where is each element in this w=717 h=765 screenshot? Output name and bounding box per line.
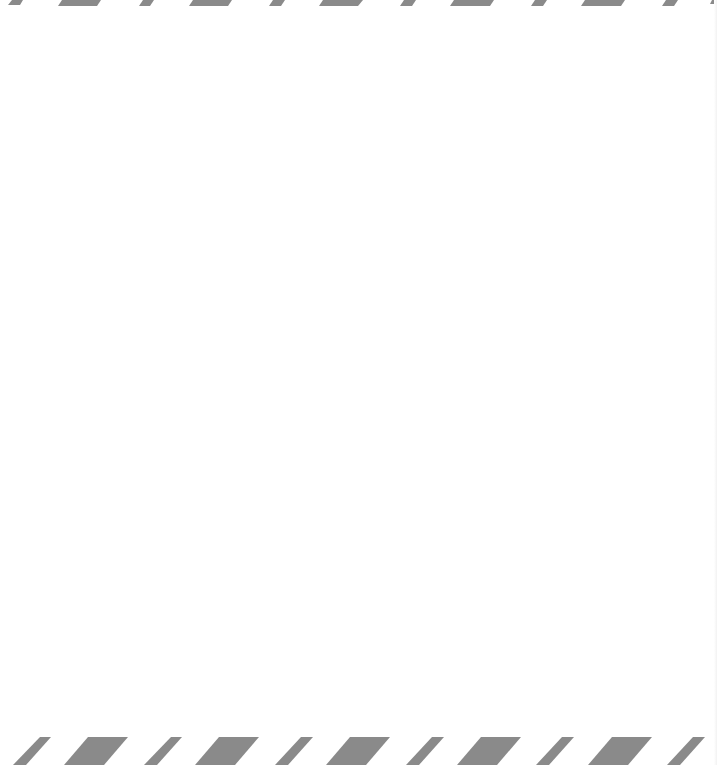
bottom-stripes-graphic bbox=[0, 735, 717, 765]
blank-content-area bbox=[0, 8, 714, 735]
bottom-stripe-border bbox=[0, 735, 717, 765]
top-stripes-graphic bbox=[0, 0, 717, 8]
top-stripe-border bbox=[0, 0, 717, 8]
